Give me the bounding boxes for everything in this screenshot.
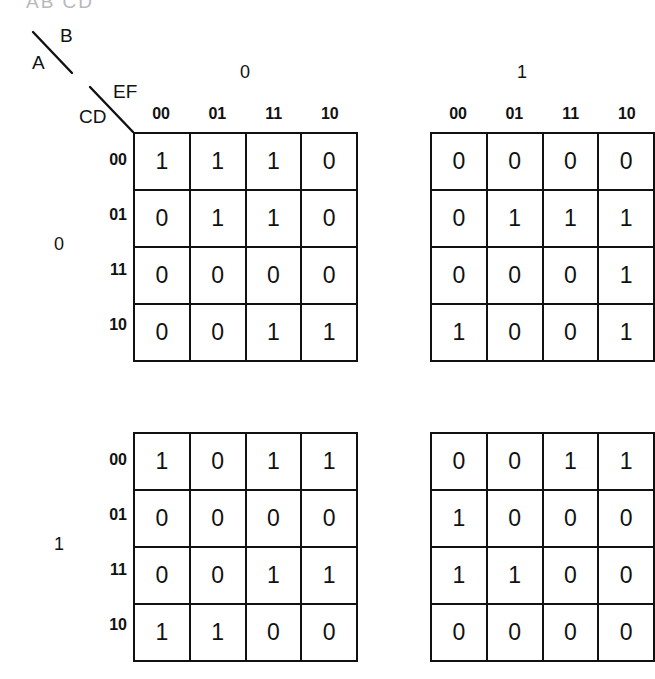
kmap-row: 0000 [431,604,654,661]
kmap-cell: 1 [246,190,302,247]
column-labels-top-left: 00 01 11 10 [133,106,358,122]
kmap-cell: 1 [598,433,654,490]
column-label: 11 [543,106,599,122]
kmap-cell: 0 [301,133,357,190]
row-label: 10 [89,597,127,652]
variable-label-ef: EF [113,82,137,101]
kmap-cell: 1 [598,247,654,304]
kmap-cell: 0 [487,304,543,361]
kmap-cell: 1 [598,304,654,361]
kmap-cell: 0 [134,190,190,247]
kmap-cell: 1 [190,133,246,190]
row-label: 00 [89,132,127,187]
kmap-cell: 0 [134,247,190,304]
kmap-row: 1001 [431,304,654,361]
kmap-row: 1100 [134,604,357,661]
kmap-row: 0000 [134,247,357,304]
kmap-cell: 0 [246,604,302,661]
kmap-cell: 0 [598,604,654,661]
kmap-grid: 0000011100011001 [430,132,655,362]
kmap-row: 1110 [134,133,357,190]
kmap-cell: 1 [543,433,599,490]
kmap-quadrant-top-right: 00 01 11 10 0000011100011001 [430,132,655,352]
kmap-cell: 0 [431,133,487,190]
kmap-row: 0000 [431,133,654,190]
variable-label-cd: CD [79,107,106,126]
kmap-cell: 0 [543,133,599,190]
kmap-quadrant-top-left: 00 01 11 10 00 01 11 10 1110011000000011 [133,132,358,352]
row-labels-top-left: 00 01 11 10 [89,132,127,352]
kmap-row: 0001 [431,247,654,304]
variable-label-b: B [60,26,73,45]
kmap-row: 0111 [431,190,654,247]
row-label: 11 [89,542,127,597]
kmap-cell: 1 [487,190,543,247]
kmap-cell: 0 [246,247,302,304]
variable-label-a: A [32,53,45,72]
kmap-cell: 0 [431,247,487,304]
row-label: 11 [89,242,127,297]
kmap-cell: 0 [190,433,246,490]
kmap-cell: 0 [487,133,543,190]
kmap-cell: 1 [543,190,599,247]
kmap-row: 0110 [134,190,357,247]
column-group-header-b1: 1 [502,63,542,81]
kmap-cell: 1 [431,490,487,547]
kmap-cell: 0 [598,490,654,547]
kmap-row: 0000 [134,490,357,547]
kmap-cell: 0 [301,604,357,661]
kmap-cell: 1 [190,190,246,247]
kmap-cell: 0 [301,190,357,247]
kmap-cell: 0 [543,490,599,547]
kmap-quadrant-bottom-left: 00 01 11 10 1011000000111100 [133,432,358,652]
kmap-row: 1011 [134,433,357,490]
kmap-grid: 1110011000000011 [133,132,358,362]
kmap-cell: 1 [246,547,302,604]
row-label: 10 [89,297,127,352]
kmap-cell: 0 [134,490,190,547]
kmap-cell: 0 [598,547,654,604]
kmap-cell: 1 [301,304,357,361]
kmap-row: 1000 [431,490,654,547]
column-label: 11 [246,106,302,122]
column-label: 01 [189,106,245,122]
kmap-cell: 1 [301,433,357,490]
kmap-cell: 1 [598,190,654,247]
kmap-cell: 0 [598,133,654,190]
kmap-cell: 0 [487,247,543,304]
column-label: 00 [133,106,189,122]
kmap-cell: 1 [431,547,487,604]
row-label: 00 [89,432,127,487]
kmap-cell: 1 [431,304,487,361]
kmap-cell: 1 [190,604,246,661]
column-label: 10 [302,106,358,122]
column-labels-top-right: 00 01 11 10 [430,106,655,122]
kmap-cell: 0 [134,547,190,604]
column-label: 10 [599,106,655,122]
kmap-cell: 1 [134,133,190,190]
kmap-cell: 0 [190,304,246,361]
kmap-cell: 0 [487,433,543,490]
kmap-row: 0011 [134,547,357,604]
kmap-cell: 0 [431,433,487,490]
kmap-cell: 0 [246,490,302,547]
kmap-cell: 0 [190,490,246,547]
kmap-row: 1100 [431,547,654,604]
kmap-cell: 1 [487,547,543,604]
kmap-cell: 1 [301,547,357,604]
kmap-cell: 1 [134,604,190,661]
column-label: 01 [486,106,542,122]
kmap-grid: 0011100011000000 [430,432,655,662]
kmap-cell: 0 [190,247,246,304]
kmap-cell: 0 [190,547,246,604]
row-labels-bottom-left: 00 01 11 10 [89,432,127,652]
kmap-cell: 0 [543,547,599,604]
kmap-cell: 1 [246,433,302,490]
kmap-quadrant-bottom-right: 0011100011000000 [430,432,655,652]
kmap-cell: 1 [246,133,302,190]
column-label: 00 [430,106,486,122]
kmap-cell: 0 [301,490,357,547]
kmap-cell: 1 [134,433,190,490]
row-group-header-a1: 1 [46,535,72,553]
